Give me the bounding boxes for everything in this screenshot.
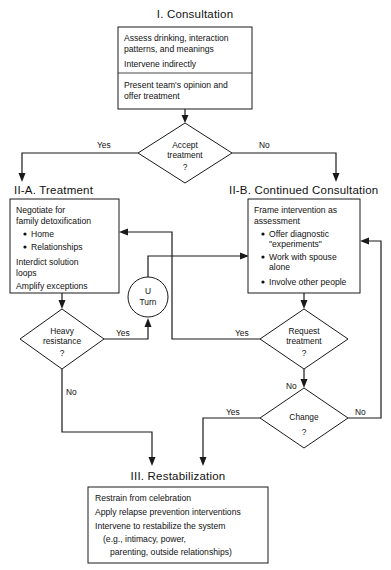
edge-label-accept-no: No xyxy=(259,140,270,150)
edge-label-request-yes: Yes xyxy=(235,328,249,338)
stage-two-b-bullet-2-line-1: Work with spouse xyxy=(269,252,337,262)
decision-accept-line-2: treatment xyxy=(167,150,203,160)
decision-request-line-1: Request xyxy=(288,326,320,336)
stage-two-a-bullet-1: Home xyxy=(31,229,54,239)
stage-two-a-line-2: family detoxification xyxy=(16,216,91,226)
edge-label-accept-yes: Yes xyxy=(97,140,111,150)
stage-one-lower-line-2: offer treatment xyxy=(124,91,180,101)
arrow-request-yes xyxy=(119,229,128,236)
decision-accept-line-1: Accept xyxy=(172,140,198,150)
arrow-change-yes xyxy=(200,457,207,466)
edge-resistance-no xyxy=(62,369,152,460)
stage-two-a-bullet-marker-1 xyxy=(23,232,26,235)
stage-two-b-bullet-marker-3 xyxy=(261,280,264,283)
u-turn-line-2: Turn xyxy=(140,297,157,307)
flowchart-canvas: I. Consultation Assess drinking, interac… xyxy=(0,0,391,570)
arrow-accept-yes xyxy=(19,173,26,182)
edge-change-yes xyxy=(203,418,260,460)
stage-three-line-5: parenting, outside relationships) xyxy=(110,547,232,557)
stage-two-a-line-4: loops xyxy=(16,268,37,278)
decision-resistance-line-3: ? xyxy=(60,348,65,358)
arrow-stage-one-to-accept xyxy=(182,115,189,123)
stage-two-a-line-5: Amplify exceptions xyxy=(16,281,88,291)
arrow-resistance-yes xyxy=(145,318,152,327)
edge-label-resistance-yes: Yes xyxy=(116,328,130,338)
decision-request-line-3: ? xyxy=(302,348,307,358)
stage-two-b-bullet-marker-1 xyxy=(261,232,264,235)
stage-one-lower-line-1: Present team's opinion and xyxy=(124,80,228,90)
stage-two-b-bullet-1-line-1: Offer diagnostic xyxy=(269,229,330,239)
stage-three-line-3: Intervene to restabilize the system xyxy=(95,521,225,531)
arrow-accept-no xyxy=(333,173,340,182)
stage-two-b-line-1: Frame intervention as xyxy=(254,205,337,215)
edge-label-resistance-no: No xyxy=(66,387,77,397)
stage-one-upper-line-2: patterns, and meanings xyxy=(124,44,214,54)
stage-two-b-bullet-3-line-1: Involve other people xyxy=(269,277,347,287)
decision-request-line-2: treatment xyxy=(286,336,322,346)
stage-two-b-heading: II-B. Continued Consultation xyxy=(229,184,378,196)
stage-one-heading: I. Consultation xyxy=(157,8,234,20)
flowchart-svg: I. Consultation Assess drinking, interac… xyxy=(0,0,391,570)
stage-one-upper-line-3: Intervene indirectly xyxy=(124,59,197,69)
stage-two-b-line-2: assessment xyxy=(254,216,300,226)
arrow-request-no xyxy=(301,379,308,388)
stage-three-heading: III. Restabilization xyxy=(131,470,226,482)
stage-two-a-line-3: Interdict solution xyxy=(16,257,79,267)
arrow-resistance-no xyxy=(149,457,156,466)
arrow-change-no xyxy=(360,238,369,245)
stage-two-a-line-1: Negotiate for xyxy=(16,205,65,215)
edge-accept-yes xyxy=(22,153,138,176)
edge-u-turn-to-two-b xyxy=(148,256,243,277)
u-turn-line-1: U xyxy=(145,286,151,296)
decision-accept-line-3: ? xyxy=(183,162,188,172)
arrow-two-a-to-resistance xyxy=(59,300,66,309)
decision-change-line-1: Change xyxy=(289,412,319,422)
stage-two-a-bullet-marker-2 xyxy=(23,245,26,248)
decision-resistance-line-2: resistance xyxy=(43,336,82,346)
arrow-two-b-to-request xyxy=(301,300,308,309)
stage-three-line-2: Apply relapse prevention interventions xyxy=(95,507,241,517)
stage-two-b-bullet-2-line-2: alone xyxy=(269,262,290,272)
stage-three-line-4: (e.g., intimacy, power, xyxy=(103,534,186,544)
decision-resistance-line-1: Heavy xyxy=(50,326,75,336)
stage-two-b-bullet-marker-2 xyxy=(261,255,264,258)
edge-label-change-no: No xyxy=(355,407,366,417)
edge-accept-no xyxy=(232,153,336,176)
decision-change-line-2: ? xyxy=(302,427,307,437)
stage-one-upper-line-1: Assess drinking, interaction xyxy=(124,33,229,43)
stage-two-a-bullet-2: Relationships xyxy=(31,242,83,252)
edge-label-change-yes: Yes xyxy=(226,407,240,417)
stage-two-b-bullet-1-line-2: "experiments" xyxy=(269,239,322,249)
stage-three-line-1: Restrain from celebration xyxy=(95,493,191,503)
edge-label-request-no: No xyxy=(286,381,297,391)
stage-two-a-heading: II-A. Treatment xyxy=(14,184,94,196)
